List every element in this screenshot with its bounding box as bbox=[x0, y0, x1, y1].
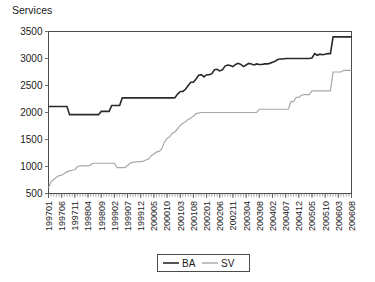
x-tick-label-14: 200211 bbox=[228, 201, 238, 230]
y-tick-label-3: 2000 bbox=[20, 107, 43, 118]
x-tick-label-7: 199912 bbox=[136, 201, 146, 231]
y-tick-label-6: 3500 bbox=[20, 26, 43, 37]
x-tick-label-19: 200412 bbox=[294, 201, 304, 231]
x-tick-label-21: 200510 bbox=[321, 201, 331, 231]
x-tick-label-10: 200103 bbox=[176, 201, 186, 231]
y-tick-label-1: 1000 bbox=[20, 161, 43, 172]
x-tick-label-20: 200505 bbox=[307, 201, 317, 231]
y-tick-label-5: 3000 bbox=[20, 53, 43, 64]
data-series bbox=[49, 37, 352, 188]
legend: BA SV bbox=[158, 255, 250, 272]
y-axis-ticks: 500100015002000250030003500 bbox=[20, 26, 48, 199]
x-tick-label-1: 199706 bbox=[57, 201, 67, 231]
y-tick-label-2: 1500 bbox=[20, 134, 43, 145]
x-tick-label-11: 200108 bbox=[189, 201, 199, 231]
x-tick-label-12: 200201 bbox=[202, 201, 212, 231]
x-tick-label-17: 200402 bbox=[268, 201, 278, 231]
y-tick-label-0: 500 bbox=[26, 188, 43, 199]
x-tick-label-0: 199701 bbox=[44, 201, 54, 231]
x-tick-label-5: 199902 bbox=[110, 201, 120, 231]
legend-label-ba: BA bbox=[182, 258, 196, 269]
y-tick-label-4: 2500 bbox=[20, 80, 43, 91]
page-title: Services bbox=[12, 4, 52, 16]
x-tick-label-3: 199804 bbox=[83, 201, 93, 231]
x-tick-label-15: 200304 bbox=[242, 201, 252, 231]
x-tick-label-4: 199809 bbox=[97, 201, 107, 231]
x-tick-label-23: 200608 bbox=[347, 201, 357, 231]
x-tick-label-22: 200603 bbox=[334, 201, 344, 231]
x-tick-label-2: 199711 bbox=[70, 201, 80, 230]
x-tick-label-13: 200206 bbox=[215, 201, 225, 231]
x-axis-ticks: 1997011997061997111998041998091999021999… bbox=[44, 194, 357, 232]
series-line-ba bbox=[49, 37, 352, 115]
legend-label-sv: SV bbox=[221, 258, 235, 269]
x-tick-label-18: 200407 bbox=[281, 201, 291, 231]
x-tick-label-16: 200308 bbox=[255, 201, 265, 231]
x-tick-label-8: 200005 bbox=[149, 201, 159, 231]
x-tick-label-9: 200010 bbox=[162, 201, 172, 231]
series-line-sv bbox=[49, 70, 352, 188]
x-tick-label-6: 199907 bbox=[123, 201, 133, 231]
services-line-chart: Services 500100015002000250030003500 199… bbox=[0, 0, 375, 282]
